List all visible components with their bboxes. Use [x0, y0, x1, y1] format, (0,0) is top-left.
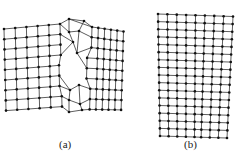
- figure-canvas: [0, 0, 241, 165]
- mesh-b: [157, 13, 235, 140]
- caption-b: (b): [184, 138, 197, 150]
- mesh-a: [3, 18, 125, 114]
- caption-a: (a): [59, 138, 71, 150]
